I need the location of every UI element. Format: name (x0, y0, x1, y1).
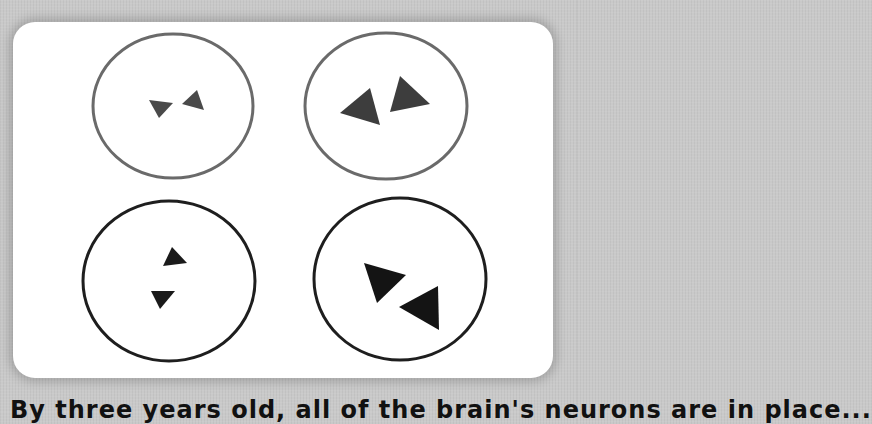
panel-bottom-right (314, 198, 486, 360)
triangle-icon (151, 291, 175, 309)
ring (93, 34, 253, 178)
triangle-icon (390, 76, 430, 112)
triangle-icon (182, 90, 204, 110)
panel-top-right (305, 33, 467, 179)
panel-bottom-left (83, 201, 255, 361)
ring (305, 33, 467, 179)
panel-top-left (93, 34, 253, 178)
triangle-icon (364, 263, 406, 303)
ring (83, 201, 255, 361)
caption-text: By three years old, all of the brain's n… (10, 396, 610, 424)
triangle-icon (163, 247, 187, 266)
triangle-icon (340, 88, 380, 125)
triangle-icon (399, 286, 439, 330)
triangle-icon (149, 100, 173, 118)
